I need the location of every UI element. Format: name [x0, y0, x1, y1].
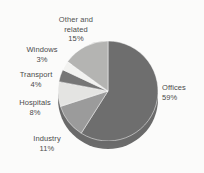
pie-slices: [58, 41, 158, 141]
slice-value-transport: 4%: [6, 80, 66, 90]
slice-label-other-and-related-line1: Other and: [59, 15, 93, 24]
slice-label-other-and-related-line2: related: [64, 25, 88, 34]
slice-label-industry-text: Industry: [33, 134, 60, 143]
slice-label-transport: Transport 4%: [6, 70, 66, 89]
slice-label-offices: Offices 59%: [162, 83, 202, 102]
slice-label-windows: Windows 3%: [14, 45, 70, 64]
slice-value-industry: 11%: [18, 144, 76, 154]
slice-value-windows: 3%: [14, 55, 70, 65]
slice-label-offices-text: Offices: [162, 83, 186, 92]
pie-chart-screenshot: Other and related 15% Windows 3% Transpo…: [0, 0, 204, 173]
slice-label-industry: Industry 11%: [18, 134, 76, 153]
slice-value-hospitals: 8%: [6, 108, 64, 118]
slice-value-offices: 59%: [162, 93, 202, 103]
slice-label-hospitals-text: Hospitals: [19, 98, 51, 107]
slice-label-other-and-related: Other and related 15%: [46, 15, 106, 44]
slice-label-windows-text: Windows: [26, 45, 57, 54]
slice-value-other-and-related: 15%: [46, 34, 106, 44]
pie-chart: [58, 41, 158, 141]
slice-label-transport-text: Transport: [20, 70, 53, 79]
slice-label-hospitals: Hospitals 8%: [6, 98, 64, 117]
